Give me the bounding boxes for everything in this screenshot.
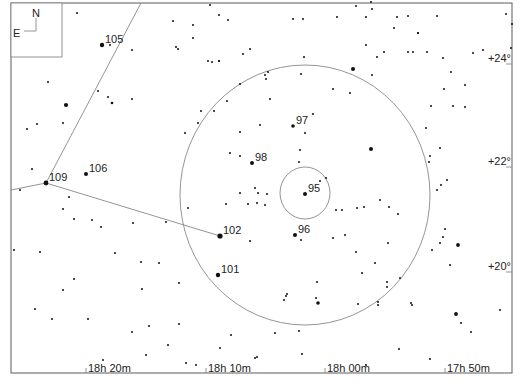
star bbox=[200, 110, 202, 112]
star bbox=[316, 301, 320, 305]
star bbox=[73, 278, 75, 280]
star bbox=[355, 251, 357, 253]
star bbox=[351, 67, 355, 71]
star bbox=[440, 184, 442, 186]
star bbox=[464, 106, 466, 108]
star bbox=[312, 113, 314, 115]
star bbox=[444, 228, 446, 230]
star bbox=[355, 5, 357, 7]
star bbox=[165, 221, 167, 223]
star bbox=[315, 297, 317, 299]
star bbox=[192, 37, 194, 39]
star bbox=[131, 49, 133, 51]
star bbox=[292, 18, 294, 20]
star bbox=[388, 206, 390, 208]
star-dot bbox=[217, 233, 222, 238]
star bbox=[187, 207, 189, 209]
star bbox=[114, 252, 116, 254]
star bbox=[412, 51, 414, 53]
star bbox=[239, 83, 241, 85]
star bbox=[249, 240, 251, 242]
star-dot bbox=[250, 161, 254, 165]
star bbox=[226, 100, 228, 102]
star bbox=[499, 309, 501, 311]
star bbox=[396, 16, 398, 18]
star bbox=[299, 149, 301, 151]
star bbox=[428, 161, 430, 163]
star bbox=[259, 124, 261, 126]
star bbox=[195, 364, 197, 366]
star bbox=[336, 16, 338, 18]
star-dot bbox=[291, 124, 295, 128]
star bbox=[332, 88, 334, 90]
star bbox=[256, 202, 258, 204]
star bbox=[34, 308, 36, 310]
star-dot bbox=[100, 43, 104, 47]
star bbox=[298, 330, 300, 332]
star bbox=[140, 261, 142, 263]
star bbox=[178, 323, 180, 325]
star bbox=[225, 203, 227, 205]
star bbox=[379, 199, 381, 201]
star bbox=[254, 357, 256, 359]
star bbox=[39, 251, 41, 253]
star bbox=[76, 12, 78, 14]
star bbox=[304, 132, 306, 134]
ra-tick-label: 17h 50m bbox=[447, 362, 490, 374]
star bbox=[371, 74, 373, 76]
star bbox=[332, 237, 334, 239]
star bbox=[19, 189, 21, 191]
star bbox=[361, 272, 363, 274]
star-dot bbox=[293, 233, 297, 237]
compass: NE bbox=[11, 3, 62, 57]
star bbox=[62, 289, 64, 291]
star bbox=[316, 281, 318, 283]
star bbox=[213, 110, 215, 112]
star bbox=[267, 71, 269, 73]
star-dot bbox=[44, 181, 49, 186]
star bbox=[249, 48, 251, 50]
star bbox=[450, 71, 452, 73]
star bbox=[100, 226, 102, 228]
star bbox=[302, 18, 304, 20]
star bbox=[178, 282, 180, 284]
star bbox=[26, 128, 28, 130]
star bbox=[87, 318, 89, 320]
star bbox=[102, 359, 104, 361]
star bbox=[301, 353, 303, 355]
dec-tick-label: +20° bbox=[488, 260, 511, 272]
star bbox=[131, 331, 133, 333]
star bbox=[397, 213, 399, 215]
star bbox=[370, 1, 372, 3]
star bbox=[264, 204, 266, 206]
star bbox=[209, 4, 211, 6]
star bbox=[442, 57, 444, 59]
star bbox=[286, 293, 288, 295]
star bbox=[357, 303, 359, 305]
dec-tick: +22° bbox=[488, 155, 512, 167]
star bbox=[456, 243, 460, 247]
star bbox=[239, 192, 241, 194]
star-label: 109 bbox=[49, 171, 67, 183]
star bbox=[460, 322, 462, 324]
star bbox=[172, 20, 174, 22]
star bbox=[464, 84, 466, 86]
star bbox=[363, 206, 365, 208]
star bbox=[341, 209, 343, 211]
star bbox=[454, 312, 458, 316]
star bbox=[365, 44, 367, 46]
star bbox=[393, 27, 395, 29]
star bbox=[300, 73, 302, 75]
star bbox=[177, 48, 179, 50]
star bbox=[407, 15, 409, 17]
star bbox=[300, 239, 302, 241]
star bbox=[230, 334, 232, 336]
star bbox=[264, 74, 266, 76]
star bbox=[443, 88, 445, 90]
compass-north-label: N bbox=[32, 7, 40, 19]
star bbox=[97, 90, 99, 92]
ra-tick: 18h 10m bbox=[206, 362, 251, 374]
star bbox=[239, 131, 241, 133]
star bbox=[36, 123, 38, 125]
ra-tick-label: 18h 20m bbox=[88, 362, 131, 374]
